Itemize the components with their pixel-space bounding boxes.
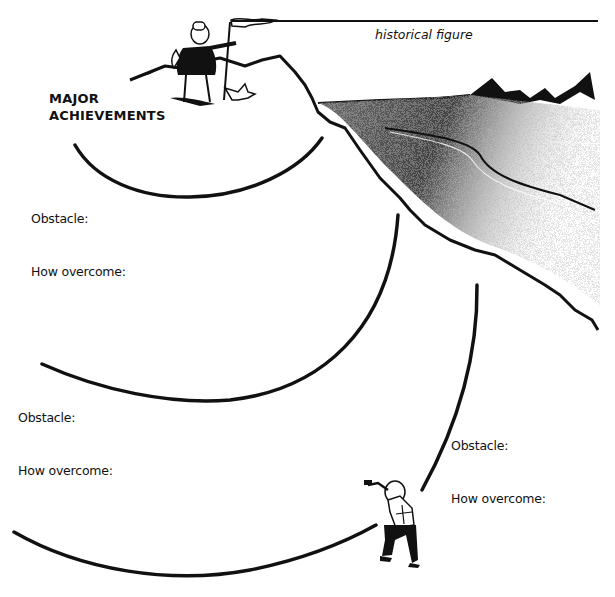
historical-figure-caption: historical figure	[375, 27, 473, 42]
obstacle-label-3: Obstacle:	[451, 438, 508, 453]
summit-hiker-icon	[170, 19, 276, 106]
major-achievements-line1: MAJOR	[49, 90, 165, 107]
worksheet-canvas: historical figure MAJOR ACHIEVEMENTS Obs…	[0, 0, 615, 597]
climber-icon	[364, 480, 420, 568]
how-overcome-label-1: How overcome:	[31, 264, 126, 279]
historical-figure-name-line[interactable]	[232, 20, 598, 22]
obstacle-label-1: Obstacle:	[31, 211, 88, 226]
major-achievements-line2: ACHIEVEMENTS	[49, 107, 165, 124]
glacier-icon	[318, 95, 600, 305]
obstacle-label-2: Obstacle:	[18, 410, 75, 425]
how-overcome-label-3: How overcome:	[451, 491, 546, 506]
major-achievements-heading: MAJOR ACHIEVEMENTS	[49, 90, 165, 124]
how-overcome-label-2: How overcome:	[18, 463, 113, 478]
